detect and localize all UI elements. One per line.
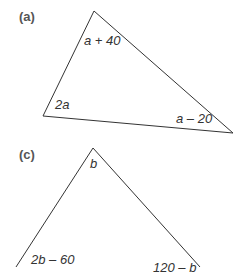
angle-label-a-bottom-right: a – 20 [176,112,212,125]
part-label-c: (c) [19,148,35,161]
triangle-c [16,148,200,267]
angle-label-c-top: b [90,157,97,170]
part-label-a: (a) [19,10,35,23]
angle-label-a-bottom-left: 2a [55,98,69,111]
angle-label-c-bottom-left: 2b – 60 [31,253,74,266]
angle-label-a-top: a + 40 [84,34,121,47]
angle-label-c-bottom-right: 120 – b [153,261,196,274]
